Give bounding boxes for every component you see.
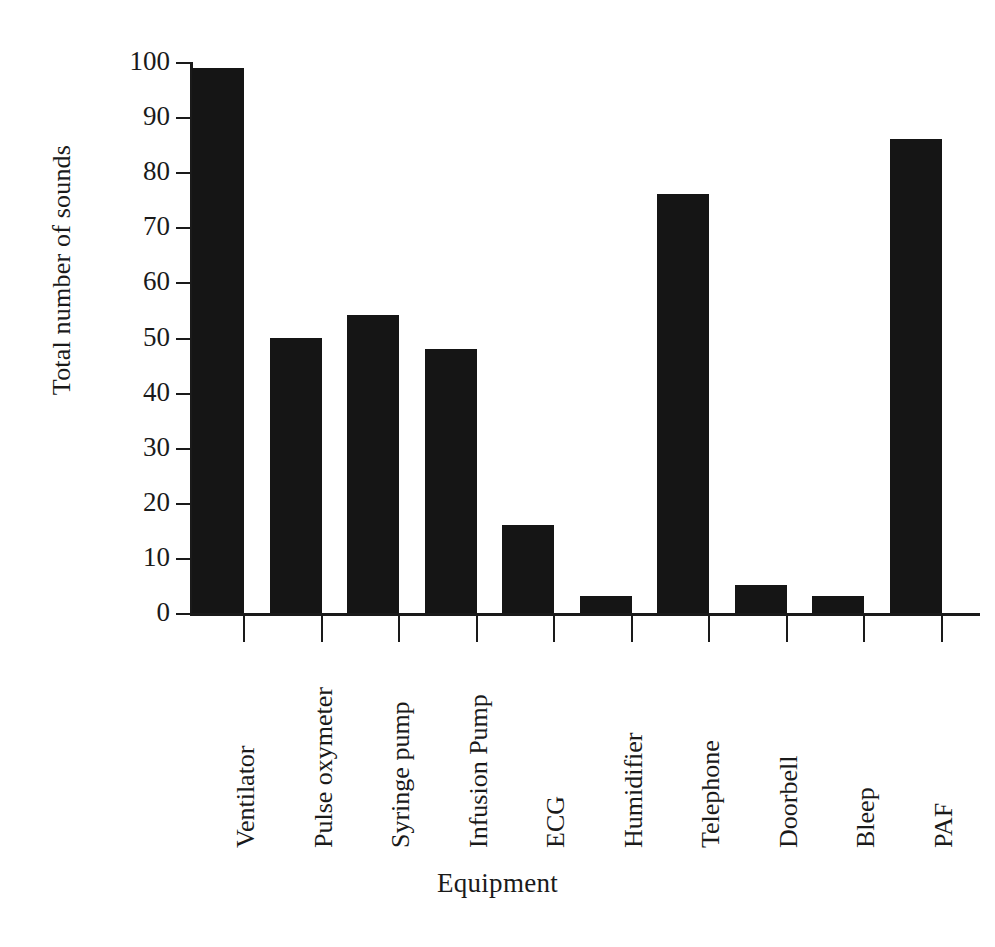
y-axis-tick: 50 bbox=[176, 338, 190, 340]
y-axis-tick-label: 0 bbox=[157, 598, 171, 626]
x-axis-category-label: Ventilator bbox=[231, 608, 261, 848]
y-axis-tick-label: 100 bbox=[130, 47, 171, 75]
y-axis-tick-label: 90 bbox=[143, 102, 170, 130]
y-axis-tick-label: 80 bbox=[143, 157, 170, 185]
x-axis-category-label: Infusion Pump bbox=[464, 608, 494, 848]
x-axis-category-label: Humidifier bbox=[619, 608, 649, 848]
x-axis-category-label: Telephone bbox=[696, 608, 726, 848]
bar-chart-figure: Total number of sounds 01020304050607080… bbox=[0, 0, 995, 947]
y-axis-tick: 20 bbox=[176, 503, 190, 505]
bar bbox=[657, 194, 709, 613]
bar bbox=[270, 338, 322, 614]
y-axis-tick: 40 bbox=[176, 393, 190, 395]
bar bbox=[890, 139, 942, 613]
x-axis-category-label: Syringe pump bbox=[386, 608, 416, 848]
y-axis-tick: 60 bbox=[176, 282, 190, 284]
y-axis-tick-label: 10 bbox=[143, 543, 170, 571]
y-axis-tick-label: 60 bbox=[143, 267, 170, 295]
y-axis-title: Total number of sounds bbox=[42, 0, 82, 590]
x-axis-title: Equipment bbox=[0, 866, 995, 900]
x-axis-category-label: ECG bbox=[541, 608, 571, 848]
y-axis-tick-label: 40 bbox=[143, 378, 170, 406]
bar bbox=[425, 349, 477, 613]
y-axis-tick: 100 bbox=[176, 62, 190, 64]
y-axis-tick-label: 20 bbox=[143, 488, 170, 516]
y-axis-tick: 70 bbox=[176, 227, 190, 229]
y-axis-tick: 90 bbox=[176, 117, 190, 119]
bar bbox=[347, 315, 399, 613]
x-axis-category-label: Bleep bbox=[851, 608, 881, 848]
x-axis-category-label: PAF bbox=[929, 608, 959, 848]
x-axis-category-label: Pulse oxymeter bbox=[309, 608, 339, 848]
bar bbox=[192, 68, 244, 613]
bar bbox=[502, 525, 554, 613]
y-axis-tick: 0 bbox=[176, 613, 190, 615]
y-axis-tick-label: 30 bbox=[143, 433, 170, 461]
y-axis-tick: 80 bbox=[176, 172, 190, 174]
y-axis-tick-label: 50 bbox=[143, 323, 170, 351]
y-axis-tick: 30 bbox=[176, 448, 190, 450]
plot-area: 0102030405060708090100 bbox=[190, 62, 980, 613]
y-axis-tick-label: 70 bbox=[143, 212, 170, 240]
y-axis-tick: 10 bbox=[176, 558, 190, 560]
x-axis-category-label: Doorbell bbox=[774, 608, 804, 848]
